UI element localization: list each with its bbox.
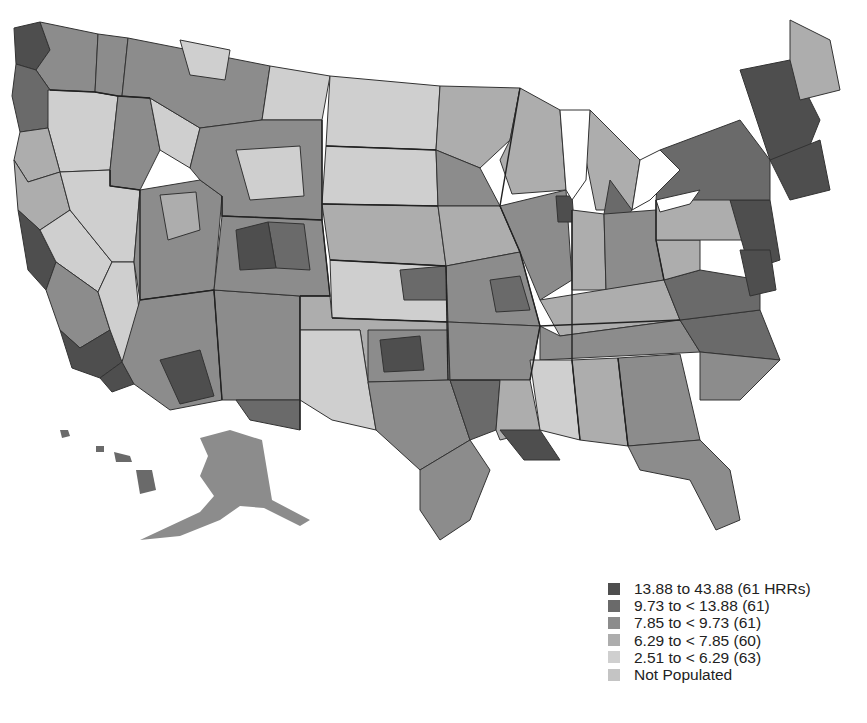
hrr-region-new-mexico xyxy=(214,290,300,400)
legend-item: Not Populated xyxy=(608,666,811,683)
hrr-region-eastern-washington xyxy=(36,22,98,92)
legend-label: 7.85 to < 9.73 (61) xyxy=(634,614,761,631)
hrr-region-oklahoma-city xyxy=(380,336,424,372)
hrr-region-central-oregon xyxy=(48,90,118,172)
hrr-region-georgia xyxy=(618,354,700,446)
legend-item: 13.88 to 43.88 (61 HRRs) xyxy=(608,580,811,597)
hrr-region-nebraska xyxy=(322,204,446,266)
alaska xyxy=(140,430,310,540)
hrr-region-montana-east xyxy=(262,66,330,120)
hrr-region-ohio xyxy=(604,210,664,290)
hrr-region-new-york xyxy=(656,120,770,200)
legend-item: 9.73 to < 13.88 (61) xyxy=(608,597,811,614)
hrr-region-kansas-city xyxy=(400,266,448,300)
hrr-region-indiana xyxy=(572,210,606,290)
legend-swatch xyxy=(608,651,620,663)
hrr-region-florida xyxy=(628,440,740,530)
map-legend: 13.88 to 43.88 (61 HRRs) 9.73 to < 13.88… xyxy=(608,580,811,683)
legend-label: Not Populated xyxy=(634,666,732,683)
legend-label: 2.51 to < 6.29 (63) xyxy=(634,649,761,666)
legend-item: 6.29 to < 7.85 (60) xyxy=(608,632,811,649)
hawaii-oahu xyxy=(96,446,104,452)
hrr-region-arkansas xyxy=(448,322,540,380)
hrr-region-south-carolina xyxy=(700,352,780,400)
legend-item: 7.85 to < 9.73 (61) xyxy=(608,614,811,631)
legend-label: 6.29 to < 7.85 (60) xyxy=(634,632,761,649)
hrr-region-south-dakota xyxy=(322,146,438,206)
hawaii-kauai xyxy=(60,430,70,438)
us-hrr-map xyxy=(0,0,867,560)
legend-swatch xyxy=(608,600,620,612)
hawaii-big-island xyxy=(136,470,156,494)
legend-swatch xyxy=(608,583,620,595)
hrr-region-new-orleans xyxy=(500,430,560,460)
legend-item: 2.51 to < 6.29 (63) xyxy=(608,649,811,666)
legend-label: 13.88 to 43.88 (61 HRRs) xyxy=(634,580,811,597)
hrr-region-north-dakota xyxy=(326,76,440,150)
legend-swatch xyxy=(608,617,620,629)
legend-swatch xyxy=(608,634,620,646)
legend-swatch xyxy=(608,669,620,681)
hawaii-maui xyxy=(114,452,132,462)
hrr-region-northern-maine xyxy=(790,20,840,100)
hrr-region-el-paso xyxy=(236,400,300,430)
legend-label: 9.73 to < 13.88 (61) xyxy=(634,597,770,614)
